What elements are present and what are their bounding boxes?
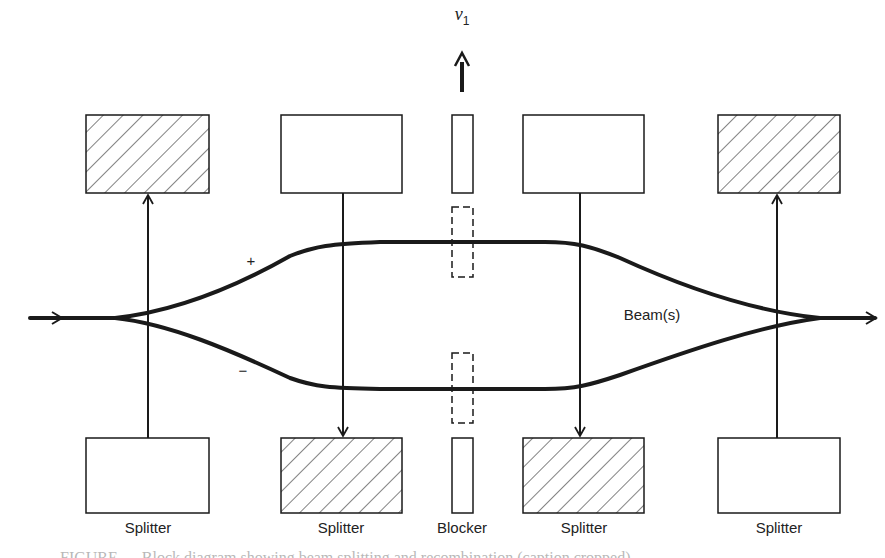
bottom-row-boxes <box>86 438 840 513</box>
label-blocker: Blocker <box>437 519 487 536</box>
upper-beam-plus <box>115 242 820 318</box>
velocity-symbol: v <box>455 4 463 24</box>
plus-sign: + <box>247 252 256 269</box>
top-box-2 <box>281 115 402 193</box>
minus-sign: − <box>239 362 248 379</box>
label-splitter-2: Splitter <box>318 519 365 536</box>
bottom-box-1 <box>86 438 209 513</box>
top-blocker <box>452 115 473 193</box>
bottom-box-4 <box>718 438 840 513</box>
velocity-subscript: 1 <box>463 14 470 28</box>
beam-label: Beam(s) <box>624 306 681 323</box>
top-box-4-hatched <box>718 115 840 193</box>
velocity-arrow <box>455 53 469 92</box>
field-arrows <box>148 193 777 438</box>
bottom-blocker <box>452 438 473 513</box>
top-box-3 <box>523 115 644 193</box>
label-splitter-4: Splitter <box>756 519 803 536</box>
splitter-blocker-diagram <box>0 0 885 558</box>
top-box-1-hatched <box>86 115 209 193</box>
label-splitter-1: Splitter <box>125 519 172 536</box>
top-row-boxes <box>86 115 840 193</box>
bottom-box-3-hatched <box>523 438 644 513</box>
bottom-box-2-hatched <box>281 438 402 513</box>
figure-caption-cropped: FIGURE — Block diagram showing beam spli… <box>60 549 631 558</box>
label-splitter-3: Splitter <box>561 519 608 536</box>
velocity-label: v1 <box>455 4 470 28</box>
